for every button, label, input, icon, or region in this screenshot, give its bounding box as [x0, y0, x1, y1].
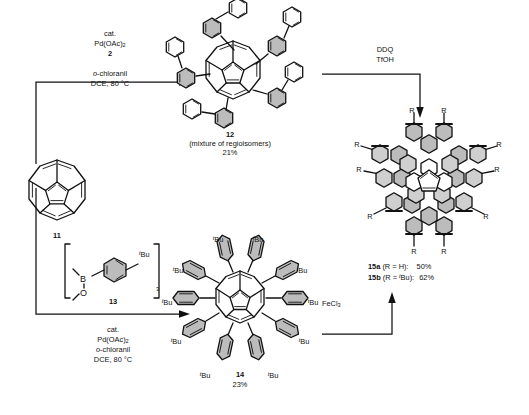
compound-12-note: (mixture of regioisomers)	[189, 139, 271, 148]
arrow-bottom-oxidant-label: o-chloranil	[96, 345, 130, 354]
compound-15a-condition: (R = H):	[382, 262, 408, 271]
fecl3-subscript: 3	[338, 302, 341, 308]
compound-12-yield: 21%	[223, 148, 238, 157]
arrow-top-solvent-label: o-chloranil	[93, 69, 127, 78]
compound-15-r-label-upper-left: R	[354, 140, 359, 149]
pd-oac-text: Pd(OAc)	[94, 39, 122, 48]
compound-14-tbu-bottom-left: tBu	[200, 370, 211, 380]
compound-15-r-label-left: R	[356, 165, 361, 174]
compound-15-r-label-upper-right: R	[496, 140, 501, 149]
compound-15-r-label-right: R	[494, 165, 499, 174]
arrow-bottom-conditions-label: DCE, 80 °C	[94, 355, 132, 364]
arrow-bottom-cat-label: cat.	[107, 325, 119, 334]
compound-15-r-label-lower-left: R	[367, 212, 372, 221]
compound-14-yield: 23%	[233, 380, 248, 389]
fecl3-text: FeCl	[322, 299, 338, 308]
compound-15b-caption: 15b (R = tBu): 62%	[368, 272, 434, 282]
structure-compound-15	[336, 108, 522, 260]
reaction-scheme: 11 cat. Pd(OAc)2 2 o-chloranil DCE, 80 °…	[0, 0, 529, 415]
compound-15a-yield: 50%	[411, 262, 432, 271]
compound-15a-label: 15a	[368, 262, 380, 271]
compound-14-tbu-left: tBu	[162, 297, 173, 307]
compound-14-tbu-lower-left: tBu	[171, 336, 182, 346]
compound-15-r-label-top-right: R	[441, 106, 446, 115]
structure-compound-14	[160, 232, 320, 372]
pd-oac-subscript: 2	[123, 42, 126, 48]
compound-14-tbu-lower-right: tBu	[299, 336, 310, 346]
compound-15a-caption: 15a (R = H): 50%	[368, 262, 431, 271]
chloranil-text: -chloranil	[97, 69, 127, 78]
compound-15-r-label-lower-right: R	[483, 212, 488, 221]
arrow-fecl3	[320, 290, 430, 338]
compound-15b-yield: 62%	[416, 273, 434, 282]
structure-compound-12	[164, 2, 304, 128]
compound-14-tbu-top-left: tBu	[213, 234, 224, 244]
compound-12-label: 12	[226, 130, 234, 139]
compound-15-r-label-bottom-left: R	[411, 247, 416, 256]
compound-15b-label: 15b	[368, 273, 381, 282]
compound-14-tbu-bottom-right: tBu	[268, 370, 279, 380]
arrow-ddq-acid-label: TfOH	[376, 55, 394, 64]
compound-14-tbu-top-right: tBu	[253, 234, 264, 244]
compound-15-r-label-bottom-right: R	[441, 247, 446, 256]
arrow-top-conditions-label: DCE, 80 °C	[91, 79, 129, 88]
compound-14-tbu-upper-right: tBu	[297, 265, 308, 275]
compound-14-tbu-right: tBu	[308, 297, 319, 307]
compound-14-label: 14	[236, 370, 244, 379]
compound-15-r-label-top-left: R	[409, 106, 414, 115]
arrow-ddq-reagent-label: DDQ	[377, 45, 393, 54]
arrow-top-reagent-2-label: 2	[108, 49, 112, 58]
compound-15b-condition: (R = tBu):	[383, 273, 414, 282]
compound-14-tbu-upper-left: tBu	[173, 265, 184, 275]
arrow-fecl3-reagent-label: FeCl3	[322, 299, 341, 310]
arrow-top-cat-label: cat.	[104, 29, 116, 38]
